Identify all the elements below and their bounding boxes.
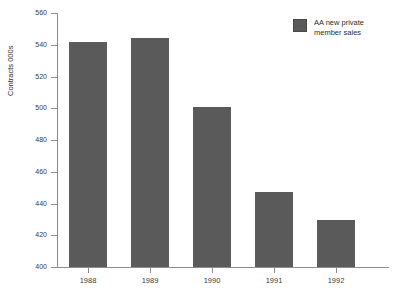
bar: [69, 42, 107, 267]
x-axis-line: [57, 267, 389, 268]
x-axis-tick-label: 1989: [130, 276, 170, 286]
y-axis-tick-label: 440: [35, 199, 47, 208]
y-axis-tick: 420: [51, 235, 58, 236]
y-axis-tick: 480: [51, 140, 58, 141]
legend-label: AA new private member sales: [314, 18, 364, 37]
legend-label-line2: member sales: [314, 28, 364, 38]
y-axis-tick-label: 540: [35, 40, 47, 49]
y-axis-tick: 500: [51, 108, 58, 109]
y-axis-tick: 540: [51, 45, 58, 46]
y-axis-title: Contracts 000s: [6, 46, 15, 96]
y-axis-tick-label: 420: [35, 230, 47, 239]
bar-chart: Contracts 000s 4004204404604805005205405…: [0, 0, 395, 296]
bar: [317, 220, 355, 267]
x-axis-tick-label: 1992: [316, 276, 356, 286]
bar: [131, 38, 169, 267]
x-axis-tick-label: 1990: [192, 276, 232, 286]
x-axis-tick: [336, 268, 337, 273]
y-axis-tick-label: 520: [35, 72, 47, 81]
y-axis-tick: 560: [51, 13, 58, 14]
y-axis-tick: 460: [51, 172, 58, 173]
y-axis-tick: 520: [51, 77, 58, 78]
legend-label-line1: AA new private: [314, 18, 364, 28]
x-axis-tick-label: 1988: [68, 276, 108, 286]
x-axis-tick: [88, 268, 89, 273]
y-axis-tick-label: 460: [35, 167, 47, 176]
x-axis-tick: [150, 268, 151, 273]
x-axis-tick: [274, 268, 275, 273]
bar: [193, 107, 231, 267]
bar: [255, 192, 293, 267]
x-axis-tick: [212, 268, 213, 273]
y-axis-tick-label: 500: [35, 103, 47, 112]
y-axis-tick-label: 480: [35, 135, 47, 144]
y-axis-tick: 440: [51, 204, 58, 205]
y-axis-tick-label: 400: [35, 262, 47, 271]
x-axis-tick-label: 1991: [254, 276, 294, 286]
legend: AA new private member sales: [293, 18, 364, 37]
legend-swatch-icon: [293, 19, 307, 32]
y-axis-tick-label: 560: [35, 8, 47, 17]
y-axis-tick: 400: [51, 267, 58, 268]
